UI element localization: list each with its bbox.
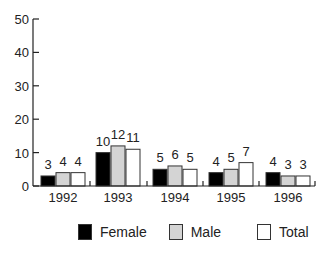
- legend-item-male: Male: [169, 224, 221, 240]
- bar-total-1994: [183, 169, 197, 186]
- bar-female-1995: [209, 173, 223, 186]
- value-label: 4: [74, 154, 81, 169]
- value-label: 3: [44, 157, 51, 172]
- bar-male-1992: [56, 173, 70, 186]
- y-axis: 01020304050: [15, 12, 39, 194]
- value-label: 12: [111, 127, 125, 142]
- x-category-label: 1994: [161, 190, 190, 205]
- value-label: 4: [269, 154, 276, 169]
- bar-female-1993: [96, 153, 110, 186]
- legend-label: Male: [191, 224, 221, 240]
- y-tick-label: 50: [15, 12, 29, 27]
- bar-female-1992: [41, 176, 55, 186]
- legend-label: Female: [100, 224, 147, 240]
- value-label: 3: [284, 157, 291, 172]
- bar-total-1993: [126, 149, 140, 186]
- bar-total-1992: [71, 173, 85, 186]
- bar-male-1994: [168, 166, 182, 186]
- value-label: 6: [171, 147, 178, 162]
- y-tick-label: 20: [15, 112, 29, 127]
- total-swatch-icon: [257, 224, 271, 240]
- value-label: 5: [186, 150, 193, 165]
- bar-male-1995: [224, 169, 238, 186]
- legend-item-total: Total: [257, 224, 309, 240]
- value-label: 11: [126, 130, 140, 145]
- legend-label: Total: [279, 224, 309, 240]
- y-tick-label: 40: [15, 45, 29, 60]
- bar-female-1996: [266, 173, 280, 186]
- female-swatch-icon: [78, 224, 92, 240]
- x-category-label: 1996: [274, 190, 303, 205]
- y-tick-label: 0: [22, 179, 29, 194]
- value-label: 10: [96, 134, 110, 149]
- bar-chart: 01020304050 344101211565457433 199219931…: [0, 0, 332, 257]
- value-label: 3: [299, 157, 306, 172]
- y-tick-label: 10: [15, 146, 29, 161]
- y-tick-label: 30: [15, 79, 29, 94]
- legend: Female Male Total: [78, 221, 331, 243]
- value-label: 5: [227, 150, 234, 165]
- bars-group: 344101211565457433: [41, 127, 310, 186]
- male-swatch-icon: [169, 224, 183, 240]
- bar-male-1993: [111, 146, 125, 186]
- x-category-label: 1993: [104, 190, 133, 205]
- bar-total-1995: [239, 163, 253, 186]
- bar-female-1994: [153, 169, 167, 186]
- value-label: 5: [156, 150, 163, 165]
- value-label: 4: [212, 154, 219, 169]
- x-category-label: 1995: [217, 190, 246, 205]
- bar-male-1996: [281, 176, 295, 186]
- x-category-label: 1992: [49, 190, 78, 205]
- bar-total-1996: [296, 176, 310, 186]
- legend-item-female: Female: [78, 224, 147, 240]
- value-label: 4: [59, 154, 66, 169]
- value-label: 7: [242, 144, 249, 159]
